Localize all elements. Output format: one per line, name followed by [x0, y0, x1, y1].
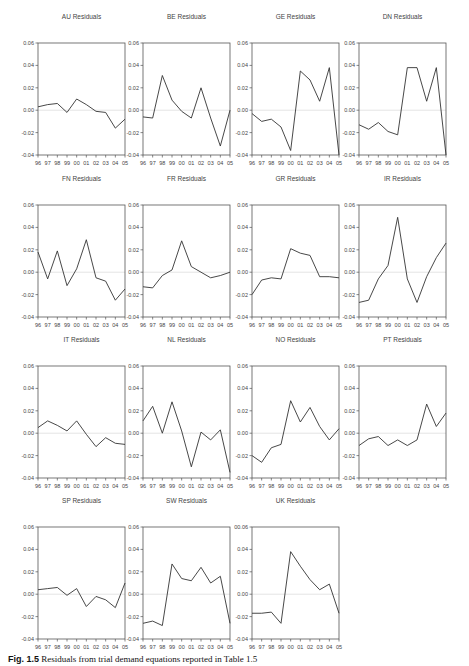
- x-tick-label: 99: [169, 483, 175, 489]
- y-tick-label: 0.00: [23, 269, 34, 275]
- plot-frame: [143, 205, 230, 317]
- y-tick-label: 0.02: [23, 247, 34, 253]
- x-tick-label: 04: [217, 644, 223, 650]
- panel-fn: FN Residuals0.060.040.020.00-0.02-0.0496…: [21, 175, 128, 328]
- x-tick-label: 97: [259, 483, 265, 489]
- x-tick-label: 99: [64, 644, 70, 650]
- panel-title: IT Residuals: [63, 336, 100, 343]
- y-tick-label: 0.00: [23, 107, 34, 113]
- y-tick-label: 0.06: [23, 202, 34, 208]
- panel-title: DN Residuals: [383, 13, 423, 20]
- panel-title: GR Residuals: [275, 175, 316, 182]
- x-tick-label: 03: [208, 483, 214, 489]
- x-tick-label: 02: [307, 483, 313, 489]
- x-tick-label: 01: [188, 160, 194, 166]
- residual-series-line: [143, 564, 230, 626]
- y-tick-label: 0.00: [237, 591, 248, 597]
- y-tick-label: 0.02: [128, 247, 139, 253]
- y-tick-label: -0.02: [235, 292, 248, 298]
- x-tick-label: 99: [278, 644, 284, 650]
- plot-frame: [143, 366, 230, 478]
- x-tick-label: 03: [103, 644, 109, 650]
- panel-be: BE Residuals0.060.040.020.00-0.02-0.0496…: [126, 13, 233, 166]
- x-tick-label: 97: [259, 644, 265, 650]
- x-tick-label: 98: [268, 160, 274, 166]
- x-tick-label: 99: [64, 160, 70, 166]
- x-tick-label: 96: [35, 322, 41, 328]
- x-tick-label: 98: [375, 483, 381, 489]
- x-tick-label: 05: [122, 160, 128, 166]
- residual-series-line: [359, 217, 446, 302]
- x-tick-label: 96: [356, 160, 362, 166]
- y-tick-label: -0.02: [21, 614, 34, 620]
- x-tick-label: 03: [208, 160, 214, 166]
- y-tick-label: 0.04: [128, 62, 139, 68]
- x-tick-label: 96: [35, 644, 41, 650]
- plot-frame: [252, 205, 339, 317]
- caption-label: Fig. 1.5: [8, 654, 39, 664]
- y-tick-label: 0.02: [128, 85, 139, 91]
- y-tick-label: -0.04: [126, 152, 139, 158]
- y-tick-label: 0.02: [128, 569, 139, 575]
- plot-frame: [38, 43, 125, 155]
- x-tick-label: 99: [169, 322, 175, 328]
- x-tick-label: 02: [414, 322, 420, 328]
- y-tick-label: 0.04: [23, 385, 34, 391]
- x-tick-label: 02: [93, 160, 99, 166]
- residual-series-line: [252, 552, 339, 624]
- x-tick-label: 03: [317, 160, 323, 166]
- y-tick-label: 0.06: [344, 202, 355, 208]
- x-tick-label: 97: [366, 160, 372, 166]
- panel-title: FN Residuals: [62, 175, 102, 182]
- x-tick-label: 98: [268, 322, 274, 328]
- panel-ge: GE Residuals0.060.040.020.00-0.02-0.0496…: [235, 13, 342, 166]
- y-tick-label: 0.02: [237, 569, 248, 575]
- y-tick-label: 0.04: [344, 385, 355, 391]
- panel-title: SP Residuals: [62, 497, 102, 504]
- y-tick-label: 0.06: [128, 524, 139, 530]
- plot-frame: [252, 43, 339, 155]
- x-tick-label: 05: [227, 322, 233, 328]
- y-tick-label: 0.06: [128, 202, 139, 208]
- y-tick-label: 0.04: [23, 546, 34, 552]
- y-tick-label: 0.00: [128, 430, 139, 436]
- x-tick-label: 98: [159, 644, 165, 650]
- x-tick-label: 04: [112, 483, 118, 489]
- y-tick-label: 0.02: [344, 85, 355, 91]
- plot-frame: [252, 366, 339, 478]
- x-tick-label: 05: [122, 322, 128, 328]
- x-tick-label: 05: [227, 160, 233, 166]
- x-tick-label: 96: [35, 160, 41, 166]
- panel-title: BE Residuals: [167, 13, 207, 20]
- y-tick-label: 0.06: [344, 40, 355, 46]
- panel-no: NO Residuals0.060.040.020.00-0.02-0.0496…: [235, 336, 342, 489]
- x-tick-label: 99: [385, 483, 391, 489]
- y-tick-label: -0.02: [342, 292, 355, 298]
- x-tick-label: 01: [404, 483, 410, 489]
- x-tick-label: 05: [443, 160, 449, 166]
- y-tick-label: 0.04: [344, 62, 355, 68]
- x-tick-label: 01: [297, 322, 303, 328]
- x-tick-label: 03: [103, 160, 109, 166]
- y-tick-label: 0.00: [128, 591, 139, 597]
- y-tick-label: 0.00: [237, 107, 248, 113]
- x-tick-label: 02: [198, 322, 204, 328]
- y-tick-label: 0.04: [23, 224, 34, 230]
- x-tick-label: 05: [443, 483, 449, 489]
- x-tick-label: 96: [140, 483, 146, 489]
- x-tick-label: 04: [433, 483, 439, 489]
- x-tick-label: 02: [93, 644, 99, 650]
- x-tick-label: 98: [54, 644, 60, 650]
- x-tick-label: 97: [366, 483, 372, 489]
- y-tick-label: 0.02: [237, 247, 248, 253]
- y-tick-label: -0.02: [21, 292, 34, 298]
- x-tick-label: 02: [198, 160, 204, 166]
- x-tick-label: 01: [297, 644, 303, 650]
- y-tick-label: -0.04: [126, 636, 139, 642]
- x-tick-label: 04: [326, 483, 332, 489]
- x-tick-label: 97: [45, 483, 51, 489]
- x-tick-label: 00: [74, 644, 80, 650]
- y-tick-label: -0.04: [235, 152, 248, 158]
- panel-pt: PT Residuals0.060.040.020.00-0.02-0.0496…: [342, 336, 449, 489]
- panel-it: IT Residuals0.060.040.020.00-0.02-0.0496…: [21, 336, 128, 489]
